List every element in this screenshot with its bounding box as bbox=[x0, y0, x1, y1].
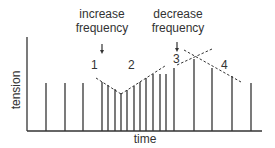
arrow-down-icon bbox=[100, 44, 104, 54]
phase-label-2: 2 bbox=[128, 59, 135, 71]
arrow-down-icon bbox=[175, 42, 179, 52]
tension-frequency-diagram: increase frequency decrease frequency 1 … bbox=[0, 0, 275, 148]
annotation-line: decrease bbox=[136, 8, 220, 20]
phase-label-3: 3 bbox=[173, 53, 180, 65]
y-axis-label: tension bbox=[10, 65, 22, 115]
annotation-line: frequency bbox=[136, 22, 220, 34]
phase-label-1: 1 bbox=[91, 59, 98, 71]
decrease-frequency-label: decrease frequency bbox=[136, 8, 220, 34]
increase-frequency-label: increase frequency bbox=[60, 8, 144, 34]
annotation-line: increase bbox=[60, 8, 144, 20]
x-axis-label: time bbox=[125, 133, 165, 145]
annotation-line: frequency bbox=[60, 22, 144, 34]
phase-label-4: 4 bbox=[221, 59, 228, 71]
